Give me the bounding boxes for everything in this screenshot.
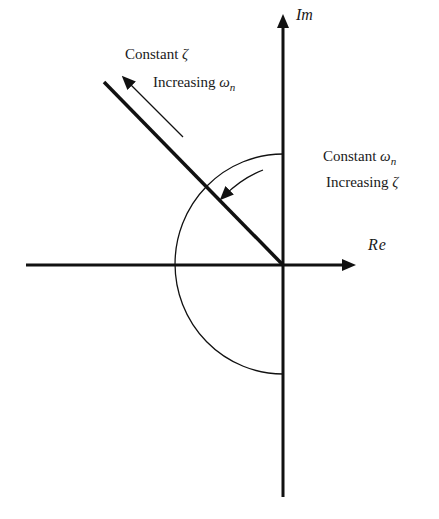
- real-axis-label: Re: [368, 236, 387, 254]
- increasing-zeta-arrow: [224, 170, 263, 196]
- increasing-wn-label: Increasing ωn: [153, 74, 235, 93]
- constant-wn-label: Constant ωn: [323, 148, 396, 167]
- constant-zeta-label: Constant ζ: [125, 46, 188, 63]
- increasing-zeta-label: Increasing ζ: [326, 174, 398, 191]
- imaginary-axis-label: Im: [296, 6, 313, 24]
